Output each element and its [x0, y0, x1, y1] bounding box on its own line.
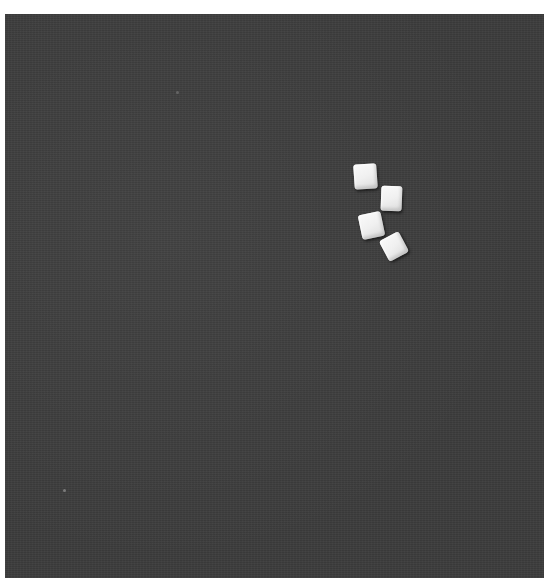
white-cube-3: [358, 211, 386, 240]
dust-speck-2: [176, 91, 179, 94]
white-cube-4: [379, 231, 409, 262]
photo-surface: [5, 14, 544, 578]
dust-speck-1: [63, 489, 66, 492]
white-cube-1: [353, 163, 378, 190]
white-cube-2: [381, 186, 403, 212]
